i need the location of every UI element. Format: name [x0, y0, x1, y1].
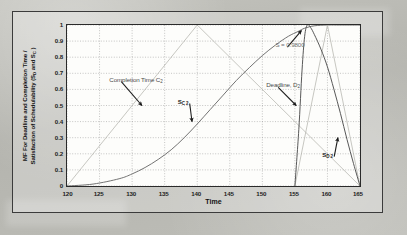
deadline-label-subscript: 2	[297, 84, 299, 89]
y-axis-tick-labels: 00.10.20.30.40.50.60.70.80.91	[44, 24, 63, 187]
x-tick-label: 120	[63, 190, 73, 197]
x-tick-label: 135	[159, 190, 169, 197]
completion-time-label-subscript: 2	[160, 79, 162, 84]
x-tick-label: 150	[256, 190, 266, 197]
y-axis-title-wrapper: MF For Deadline and Completion Time / Sa…	[16, 24, 44, 187]
y-tick-label: 0.8	[55, 53, 63, 60]
figure-root: MF For Deadline and Completion Time / Sa…	[0, 0, 407, 235]
y-tick-label: 0.4	[55, 117, 63, 124]
y-tick-label: 0.6	[55, 85, 63, 92]
s-value-label-text: S = 0.9800	[275, 41, 304, 48]
x-tick-label: 160	[321, 190, 331, 197]
y-tick-label: 0	[60, 182, 63, 189]
y-axis-title: MF For Deadline and Completion Time / Sa…	[21, 25, 39, 187]
deadline-label: Deadline, D2	[266, 81, 300, 89]
sd2-label: SD 2	[322, 151, 333, 159]
y-tick-label: 0.3	[55, 133, 63, 140]
x-tick-label: 155	[289, 190, 299, 197]
x-tick-label: 125	[94, 190, 104, 197]
plot-inner	[67, 25, 360, 186]
chart-canvas	[67, 25, 360, 186]
s-value-label: S = 0.9800	[275, 41, 304, 48]
x-tick-label: 140	[191, 190, 201, 197]
x-tick-label: 145	[224, 190, 234, 197]
sd2-label-subscript: D 2	[326, 154, 333, 159]
y-tick-label: 0.5	[55, 101, 63, 108]
completion-time-label-text: Completion Time C	[109, 76, 160, 83]
y-tick-label: 1	[60, 21, 63, 28]
y-axis-title-line1: MF For Deadline and Completion Time /	[21, 50, 28, 161]
series-sc2	[67, 25, 360, 186]
deadline-label-text: Deadline, D	[266, 81, 297, 88]
sc2-label-subscript: C 2	[182, 100, 189, 105]
plot-area	[66, 24, 361, 187]
x-tick-label: 130	[126, 190, 136, 197]
y-axis-title-line2: Satisfaction of Schedulability (SD and S…	[29, 25, 39, 187]
x-tick-label: 165	[353, 190, 363, 197]
x-axis-title: Time	[66, 198, 361, 205]
y-tick-label: 0.7	[55, 69, 63, 76]
sc2-label: SC 2	[178, 98, 189, 106]
completion-time-label: Completion Time C2	[109, 76, 162, 84]
y-tick-label: 0.2	[55, 149, 63, 156]
y-tick-label: 0.1	[55, 165, 63, 172]
y-tick-label: 0.9	[55, 37, 63, 44]
